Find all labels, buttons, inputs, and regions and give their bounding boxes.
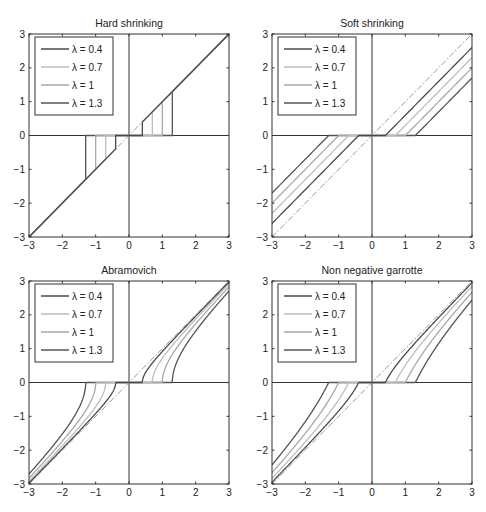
legend-label: λ = 1 [72,327,94,338]
y-tick-label: −1 [14,411,26,422]
x-tick-label: 0 [126,487,132,498]
legend: λ = 0.4λ = 0.7λ = 1λ = 1.3 [35,284,113,362]
x-tick-label: −2 [57,240,69,251]
subplot-hard-shrinking: Hard shrinking−3−2−10123−3−2−10123λ = 0.… [14,17,233,251]
x-tick-label: −3 [266,487,278,498]
x-tick-label: 0 [369,240,375,251]
x-tick-label: −3 [266,240,278,251]
legend-label: λ = 1.3 [315,98,346,109]
subplot-title: Soft shrinking [340,17,404,29]
x-tick-label: −3 [23,487,35,498]
legend-label: λ = 0.4 [72,291,103,302]
legend-label: λ = 1.3 [315,345,346,356]
legend: λ = 0.4λ = 0.7λ = 1λ = 1.3 [278,37,356,115]
x-tick-label: 3 [226,240,232,251]
y-tick-label: −2 [257,445,269,456]
x-tick-label: −1 [333,240,345,251]
y-tick-label: 2 [262,309,268,320]
figure: Hard shrinking−3−2−10123−3−2−10123λ = 0.… [0,0,486,512]
legend-label: λ = 0.7 [72,309,103,320]
legend-label: λ = 0.7 [72,62,103,73]
x-tick-label: 3 [226,487,232,498]
y-tick-label: 3 [262,29,268,40]
subplot-abramovich: Abramovich−3−2−10123−3−2−10123λ = 0.4λ =… [14,264,233,498]
x-tick-label: 1 [403,240,409,251]
y-tick-label: 3 [19,276,25,287]
legend-label: λ = 0.4 [315,291,346,302]
x-tick-label: 2 [193,240,199,251]
y-tick-label: −3 [257,232,269,243]
x-tick-label: 1 [160,487,166,498]
y-tick-label: 0 [262,130,268,141]
x-tick-label: 3 [469,240,475,251]
x-tick-label: −1 [333,487,345,498]
y-tick-label: −2 [257,198,269,209]
y-tick-label: 2 [19,309,25,320]
legend-label: λ = 1.3 [72,345,103,356]
legend-label: λ = 0.4 [72,44,103,55]
legend-label: λ = 1.3 [72,98,103,109]
x-tick-label: −3 [23,240,35,251]
x-tick-label: −1 [90,240,102,251]
subplot-soft-shrinking: Soft shrinking−3−2−10123−3−2−10123λ = 0.… [257,17,476,251]
x-tick-label: 3 [469,487,475,498]
y-tick-label: 0 [262,377,268,388]
y-tick-label: −1 [257,411,269,422]
subplot-title: Hard shrinking [95,17,163,29]
x-tick-label: −1 [90,487,102,498]
y-tick-label: 1 [262,343,268,354]
x-tick-label: 2 [436,240,442,251]
legend-label: λ = 0.4 [315,44,346,55]
x-tick-label: 1 [160,240,166,251]
legend-label: λ = 1 [72,80,94,91]
y-tick-label: 1 [19,96,25,107]
figure-canvas: Hard shrinking−3−2−10123−3−2−10123λ = 0.… [0,0,486,512]
legend-label: λ = 0.7 [315,62,346,73]
x-tick-label: −2 [300,240,312,251]
legend-label: λ = 0.7 [315,309,346,320]
y-tick-label: −2 [14,198,26,209]
y-tick-label: −2 [14,445,26,456]
legend: λ = 0.4λ = 0.7λ = 1λ = 1.3 [35,37,113,115]
legend-label: λ = 1 [315,327,337,338]
x-tick-label: 2 [193,487,199,498]
y-tick-label: 3 [262,276,268,287]
y-tick-label: −1 [14,164,26,175]
subplot-title: Abramovich [101,264,157,276]
x-tick-label: 1 [403,487,409,498]
legend: λ = 0.4λ = 0.7λ = 1λ = 1.3 [278,284,356,362]
y-tick-label: −3 [14,232,26,243]
x-tick-label: −2 [300,487,312,498]
y-tick-label: −1 [257,164,269,175]
legend-label: λ = 1 [315,80,337,91]
y-tick-label: 2 [19,62,25,73]
subplot-non-negative-garrotte: Non negative garrotte−3−2−10123−3−2−1012… [257,264,476,498]
x-tick-label: −2 [57,487,69,498]
y-tick-label: −3 [14,479,26,490]
y-tick-label: 1 [19,343,25,354]
subplot-title: Non negative garrotte [322,264,423,276]
y-tick-label: 0 [19,377,25,388]
y-tick-label: 0 [19,130,25,141]
y-tick-label: −3 [257,479,269,490]
x-tick-label: 0 [369,487,375,498]
y-tick-label: 2 [262,62,268,73]
y-tick-label: 1 [262,96,268,107]
y-tick-label: 3 [19,29,25,40]
x-tick-label: 0 [126,240,132,251]
x-tick-label: 2 [436,487,442,498]
